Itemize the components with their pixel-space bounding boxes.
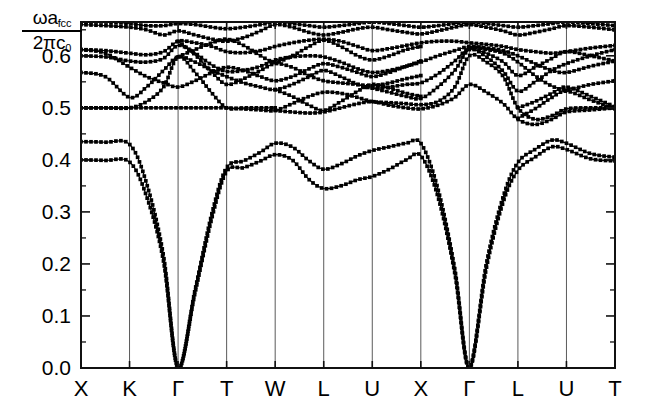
band-data-point [592, 99, 596, 103]
band-data-point [577, 24, 581, 28]
band-data-point [368, 175, 372, 179]
band-data-point [366, 70, 370, 74]
band-data-point [510, 70, 514, 74]
band-data-point [188, 320, 192, 324]
band-data-point [414, 103, 418, 107]
band-data-point [543, 29, 547, 33]
band-data-point [436, 103, 440, 107]
band-data-point [414, 97, 418, 101]
band-data-point [263, 56, 267, 60]
band-data-point [545, 140, 549, 144]
band-data-point [159, 242, 163, 246]
band-data-point [331, 90, 335, 94]
band-data-point [484, 25, 488, 29]
band-data-point [536, 118, 540, 122]
band-data-point [265, 106, 269, 110]
band-data-point [283, 91, 287, 95]
band-data-point [94, 140, 98, 144]
band-data-point [173, 356, 177, 360]
band-data-point [113, 56, 117, 60]
band-data-point [504, 62, 508, 66]
band-data-point [519, 89, 523, 93]
band-data-point [587, 83, 591, 87]
band-data-point [289, 65, 293, 69]
band-data-point [400, 161, 404, 165]
band-data-point [209, 25, 213, 29]
band-data-point [233, 26, 237, 30]
band-data-point [472, 47, 476, 51]
band-data-point [286, 56, 290, 60]
band-data-point [486, 92, 490, 96]
band-data-point [261, 149, 265, 153]
band-data-point [491, 94, 495, 98]
band-data-point [390, 91, 394, 95]
band-data-point [298, 166, 302, 170]
band-data-point [554, 115, 558, 119]
band-data-point [167, 52, 171, 56]
band-data-point [333, 58, 337, 62]
band-data-point [316, 166, 320, 170]
band-data-point [481, 58, 485, 62]
band-data-point [596, 81, 600, 85]
band-data-point [485, 43, 489, 47]
band-data-point [214, 46, 218, 50]
band-data-point [445, 27, 449, 31]
band-data-point [455, 282, 459, 286]
band-data-point [226, 165, 230, 169]
two-pi-c-text: 2πc [33, 32, 66, 53]
band-data-point [84, 48, 88, 52]
band-data-point [606, 80, 610, 84]
band-data-point [319, 69, 323, 73]
band-data-point [217, 68, 221, 72]
band-data-point [370, 49, 374, 53]
band-data-point [479, 304, 483, 308]
band-data-point [412, 153, 416, 157]
band-data-point [471, 358, 475, 362]
band-data-point [218, 183, 222, 187]
band-data-point [420, 156, 424, 160]
band-data-point [189, 65, 193, 69]
band-data-point [331, 166, 335, 170]
band-data-point [167, 297, 171, 301]
band-data-point [377, 147, 381, 151]
band-data-point [560, 140, 564, 144]
band-data-point [170, 331, 174, 335]
band-data-point [170, 66, 174, 70]
band-data-point [213, 73, 217, 77]
band-data-point [274, 79, 278, 83]
band-data-point [244, 158, 248, 162]
band-data-point [493, 225, 497, 229]
band-data-point [514, 73, 518, 77]
band-data-point [598, 45, 602, 49]
band-data-point [350, 69, 354, 73]
band-data-point [186, 329, 190, 333]
band-data-point [119, 106, 123, 110]
band-data-point [457, 47, 461, 51]
band-data-point [516, 54, 520, 58]
band-data-point [492, 47, 496, 51]
band-data-point [148, 193, 152, 197]
band-data-point [554, 93, 558, 97]
band-data-point [355, 95, 359, 99]
band-data-point [566, 85, 570, 89]
band-data-point [223, 37, 227, 41]
band-data-point [186, 61, 190, 65]
band-data-point [221, 103, 225, 107]
band-data-point [174, 106, 178, 110]
band-data-point [199, 24, 203, 28]
band-data-point [343, 105, 347, 109]
band-data-point [489, 26, 493, 30]
band-data-point [198, 62, 202, 66]
band-data-point [168, 307, 172, 311]
band-data-point [530, 101, 534, 105]
band-data-point [157, 73, 161, 77]
band-data-point [534, 155, 538, 159]
band-data-point [171, 336, 175, 340]
plot-svg: 0.00.10.20.30.40.50.6XKΓTWLUXΓLUT [0, 0, 648, 418]
band-data-point [194, 78, 198, 82]
band-data-point [521, 120, 525, 124]
band-data-point [559, 90, 563, 94]
band-data-point [304, 174, 308, 178]
band-data-point [142, 187, 146, 191]
band-data-point [237, 41, 241, 45]
